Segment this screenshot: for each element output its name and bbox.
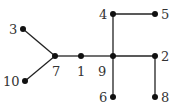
node-8 bbox=[152, 94, 158, 100]
edges bbox=[23, 14, 155, 97]
node-5 bbox=[152, 11, 158, 17]
node-label-7: 7 bbox=[52, 64, 60, 79]
node-label-9: 9 bbox=[98, 64, 106, 79]
node-label-8: 8 bbox=[161, 90, 169, 105]
node-label-2: 2 bbox=[161, 49, 169, 64]
node-label-3: 3 bbox=[9, 22, 17, 37]
node-4 bbox=[110, 11, 116, 17]
edge-3-7 bbox=[23, 29, 55, 56]
node-label-1: 1 bbox=[77, 64, 85, 79]
node-label-5: 5 bbox=[161, 7, 169, 22]
node-label-4: 4 bbox=[99, 7, 107, 22]
edge-10-7 bbox=[25, 56, 55, 81]
node-1 bbox=[78, 53, 84, 59]
node-label-10: 10 bbox=[3, 74, 20, 89]
node-3 bbox=[20, 26, 26, 32]
node-2 bbox=[152, 53, 158, 59]
node-9 bbox=[110, 53, 116, 59]
node-10 bbox=[22, 78, 28, 84]
node-6 bbox=[110, 94, 116, 100]
node-label-6: 6 bbox=[99, 90, 107, 105]
node-7 bbox=[52, 53, 58, 59]
tree-diagram: 31071945268 bbox=[0, 0, 178, 108]
